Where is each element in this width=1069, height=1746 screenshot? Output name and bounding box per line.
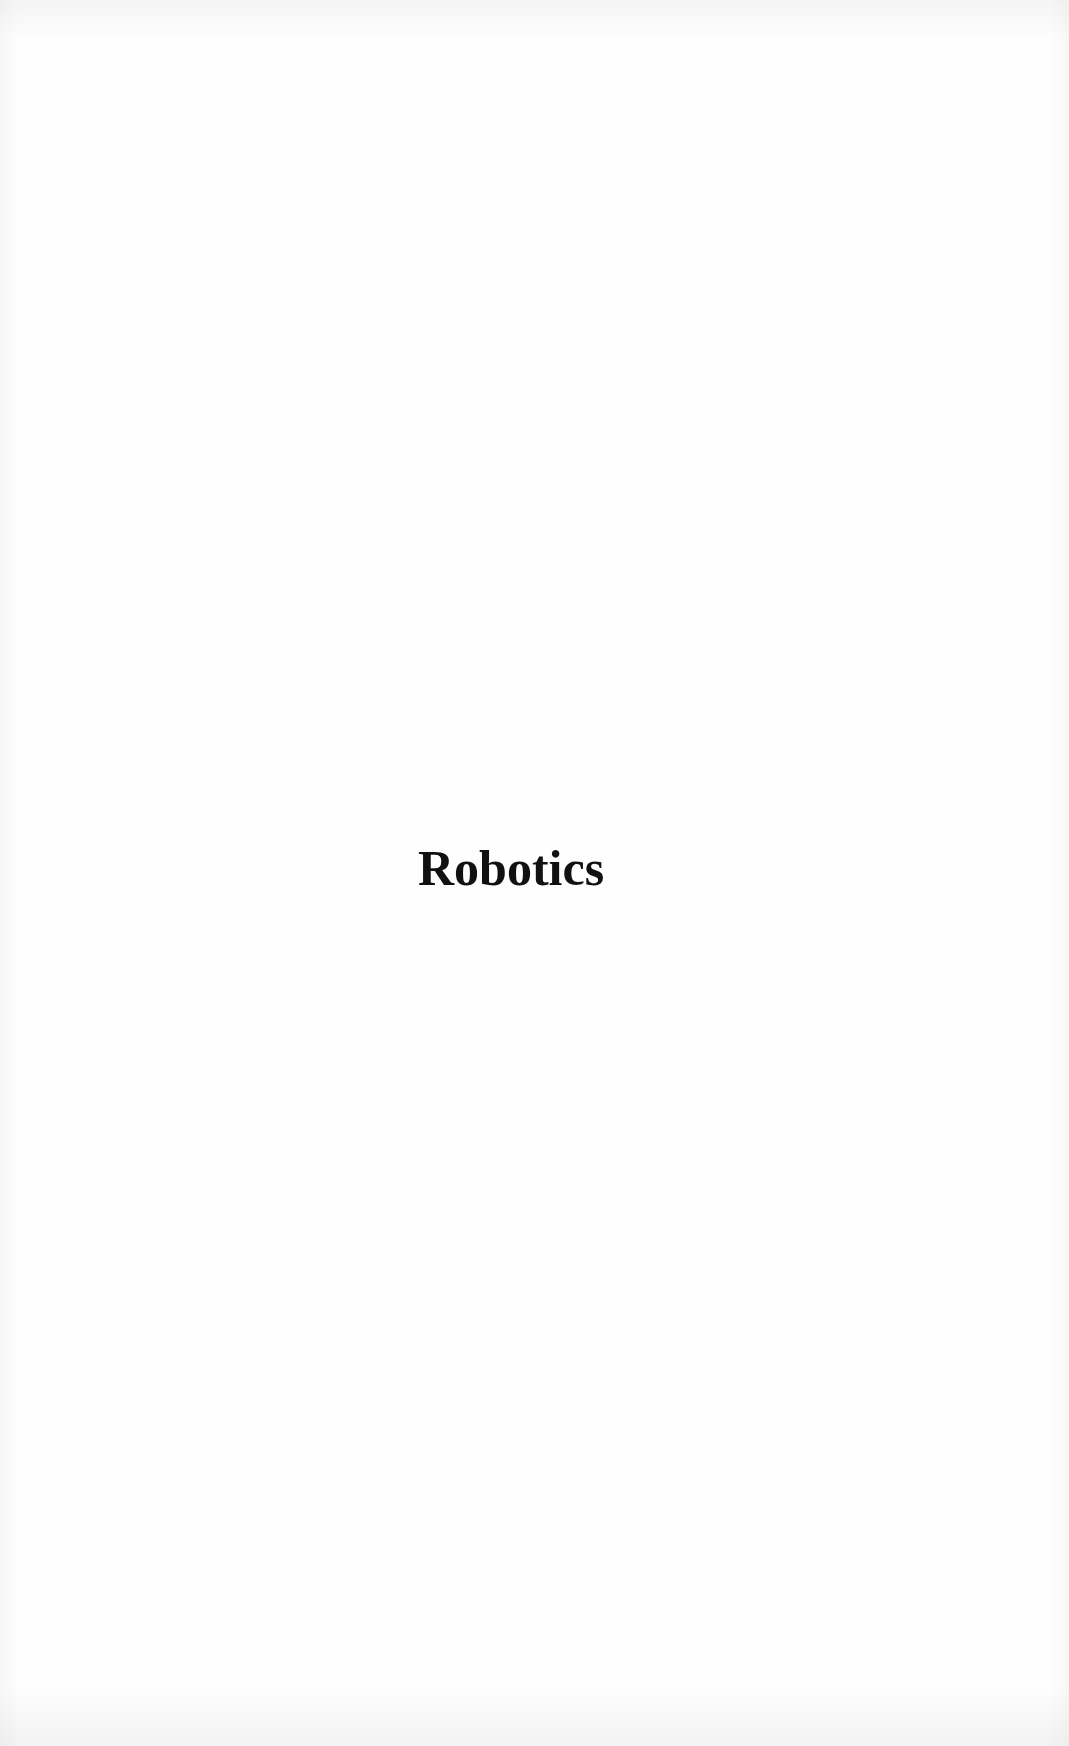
book-page: Robotics bbox=[0, 0, 1069, 1746]
section-title: Robotics bbox=[418, 843, 604, 893]
